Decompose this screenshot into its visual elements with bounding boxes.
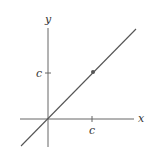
x-axis-label: x xyxy=(138,112,145,125)
x-tick-label: c xyxy=(89,124,95,137)
point-c-c xyxy=(91,70,95,74)
identity-line xyxy=(21,29,136,146)
y-tick-label: c xyxy=(36,67,42,80)
y-axis-label: y xyxy=(44,13,52,26)
graph-canvas: y x c c xyxy=(0,0,155,154)
